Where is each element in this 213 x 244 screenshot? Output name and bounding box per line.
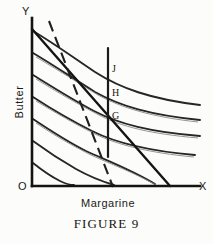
figure-caption: FIGURE 9	[0, 216, 213, 232]
indifference-curve-7	[33, 163, 74, 185]
point-label-j: J	[112, 63, 116, 74]
indifference-curve-4	[33, 97, 195, 155]
x-axis-tip-label: X	[199, 180, 207, 192]
price-line-dashed	[49, 21, 113, 187]
point-label-h: H	[112, 87, 119, 98]
y-axis-title: Butter	[13, 72, 25, 132]
point-label-g: G	[112, 110, 119, 121]
budget-line	[32, 29, 170, 186]
indifference-curve-6	[33, 141, 114, 185]
x-axis-title: Margarine	[58, 197, 158, 209]
figure-container: Y X O Butter Margarine J H G FIGURE 9	[0, 0, 213, 244]
origin-label: O	[18, 180, 27, 192]
y-axis-tip-label: Y	[22, 5, 30, 17]
figure-caption-text: FIGURE 9	[74, 216, 140, 231]
indifference-curves-group	[33, 31, 200, 185]
